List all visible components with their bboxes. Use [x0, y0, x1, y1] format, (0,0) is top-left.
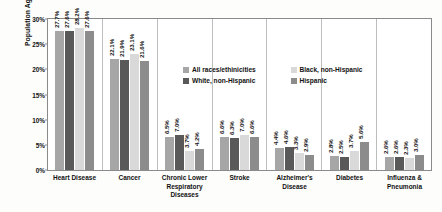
bar[interactable]: 6.3% — [230, 138, 239, 170]
bar[interactable]: 2.8% — [330, 156, 339, 170]
bar[interactable]: 4.4% — [275, 148, 284, 170]
x-axis-label: Diabetes — [322, 172, 377, 200]
x-axis-label-line: Disease — [267, 183, 322, 192]
x-axis-label: Chronic LowerRespiratory Diseases — [157, 172, 212, 200]
bar-value-label: 2.6% — [382, 140, 389, 154]
bar-slot: 4.2% — [195, 19, 204, 170]
bar-value-label: 27.6% — [83, 11, 90, 28]
legend-swatch-icon — [291, 78, 297, 84]
bar-value-label: 2.9% — [302, 139, 309, 153]
bar-value-label: 28.2% — [73, 8, 80, 25]
bar[interactable]: 4.6% — [285, 147, 294, 170]
y-tick-label: 20% — [32, 66, 45, 73]
bar[interactable]: 27.6% — [65, 31, 74, 170]
bar[interactable]: 22.1% — [110, 59, 119, 170]
bar-group: 2.6%2.6%2.3%3.0% — [377, 19, 431, 170]
y-tick-label: 30% — [32, 16, 45, 23]
x-axis-label-line: Pneumonia — [377, 183, 432, 192]
bar-value-label: 4.4% — [272, 131, 279, 145]
legend-item[interactable]: White, non-Hispanic — [183, 77, 291, 84]
bar[interactable]: 3.7% — [350, 151, 359, 170]
bar-value-label: 27.7% — [53, 11, 60, 28]
legend-label: Hispanic — [300, 77, 327, 84]
bar-value-label: 6.6% — [218, 120, 225, 134]
bar[interactable]: 21.9% — [120, 60, 129, 170]
bar-slot: 6.6% — [220, 19, 229, 170]
y-tick-label: 10% — [32, 116, 45, 123]
bar[interactable]: 2.5% — [340, 157, 349, 170]
bar[interactable]: 3.3% — [295, 153, 304, 170]
bar-groups: 27.7%27.6%28.2%27.6%22.1%21.9%23.1%21.6%… — [48, 19, 431, 170]
bar-value-label: 3.7% — [347, 135, 354, 149]
bar[interactable]: 2.6% — [395, 157, 404, 170]
legend-label: All races/ethinicities — [192, 66, 256, 73]
bar-slot: 27.6% — [85, 19, 94, 170]
bar-value-label: 2.3% — [402, 142, 409, 156]
legend-item[interactable]: All races/ethinicities — [183, 66, 291, 73]
x-axis-label-line: Chronic Lower — [157, 174, 212, 183]
legend-swatch-icon — [183, 67, 189, 73]
bar-value-label: 4.6% — [282, 130, 289, 144]
bar-value-label: 3.7% — [183, 135, 190, 149]
bar[interactable]: 6.5% — [165, 137, 174, 170]
bar-value-label: 21.9% — [118, 40, 125, 57]
bar-slot: 3.0% — [415, 19, 424, 170]
x-axis-label-line: Heart Disease — [47, 174, 102, 183]
bar[interactable]: 4.2% — [195, 149, 204, 170]
bar[interactable]: 7.0% — [240, 135, 249, 170]
x-axis-label-line: Diabetes — [322, 174, 377, 183]
legend-swatch-icon — [183, 78, 189, 84]
bar-value-label: 3.3% — [292, 137, 299, 151]
y-axis-title: Population Aged 65 or Older — [24, 0, 31, 69]
bar-slot: 2.9% — [305, 19, 314, 170]
chart-legend: All races/ethinicitiesBlack, non-Hispani… — [183, 66, 398, 84]
bar[interactable]: 2.3% — [405, 158, 414, 170]
x-axis-label: Heart Disease — [47, 172, 102, 200]
bar[interactable]: 23.1% — [130, 54, 139, 170]
bar-slot: 3.7% — [185, 19, 194, 170]
y-tick-label: 5% — [36, 141, 45, 148]
bar[interactable]: 27.7% — [55, 31, 64, 170]
bar-slot: 5.6% — [360, 19, 369, 170]
bar[interactable]: 27.6% — [85, 31, 94, 170]
bar-value-label: 23.1% — [128, 34, 135, 51]
bar[interactable]: 2.6% — [385, 157, 394, 170]
bar-value-label: 6.5% — [163, 121, 170, 135]
bar-value-label: 2.8% — [327, 139, 334, 153]
bar[interactable]: 3.7% — [185, 151, 194, 170]
x-axis-label-line: Respiratory Diseases — [157, 183, 212, 200]
bar-value-label: 2.5% — [337, 141, 344, 155]
bar-slot: 27.6% — [65, 19, 74, 170]
bar-slot: 27.7% — [55, 19, 64, 170]
bar-group: 4.4%4.6%3.3%2.9% — [267, 19, 322, 170]
x-axis-label: Influenza &Pneumonia — [377, 172, 432, 200]
bar-value-label: 6.6% — [248, 120, 255, 134]
bar[interactable]: 21.6% — [140, 61, 149, 170]
bar[interactable]: 6.6% — [220, 137, 229, 170]
bar-group: 2.8%2.5%3.7%5.6% — [322, 19, 377, 170]
legend-swatch-icon — [291, 67, 297, 73]
bar-value-label: 21.6% — [138, 41, 145, 58]
bar-group: 6.6%6.3%7.0%6.6% — [213, 19, 268, 170]
bar[interactable]: 6.6% — [250, 137, 259, 170]
bar-value-label: 4.2% — [193, 132, 200, 146]
bar[interactable]: 5.6% — [360, 142, 369, 170]
bar[interactable]: 2.9% — [305, 155, 314, 170]
x-axis-labels: Heart DiseaseCancerChronic LowerRespirat… — [47, 172, 432, 200]
legend-item[interactable]: Hispanic — [291, 77, 399, 84]
x-axis-label: Stroke — [212, 172, 267, 200]
legend-label: White, non-Hispanic — [192, 77, 255, 84]
legend-item[interactable]: Black, non-Hispanic — [291, 66, 399, 73]
x-axis-label-line: Influenza & — [377, 174, 432, 183]
bar-value-label: 5.6% — [357, 125, 364, 139]
bar-slot: 21.6% — [140, 19, 149, 170]
bar-slot: 7.0% — [240, 19, 249, 170]
bar-slot: 6.3% — [230, 19, 239, 170]
bar-value-label: 22.1% — [108, 39, 115, 56]
bar-value-label: 7.0% — [173, 118, 180, 132]
bar-slot: 3.7% — [350, 19, 359, 170]
bar-value-label: 6.3% — [228, 122, 235, 136]
bar[interactable]: 28.2% — [75, 28, 84, 170]
bar-chart: Population Aged 65 or Older 0%5%10%15%20… — [0, 0, 442, 212]
bar[interactable]: 3.0% — [415, 155, 424, 170]
